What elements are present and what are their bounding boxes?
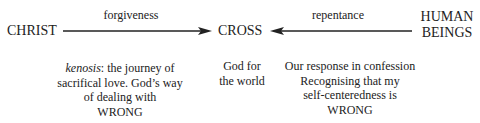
repentance-arrow — [270, 27, 412, 35]
node-human-line1: HUMAN — [418, 9, 476, 25]
node-christ: CHRIST — [7, 23, 57, 39]
description-right: Our response in confession Recognising t… — [280, 59, 420, 117]
description-right-line3: self-centeredness is — [280, 88, 420, 103]
description-left: kenosis: the journey of sacrifical love.… — [55, 61, 185, 119]
description-left-line4: WRONG — [55, 105, 185, 120]
description-center-line2: the world — [214, 74, 270, 89]
description-left-line3: of dealing with — [55, 90, 185, 105]
description-left-line2: sacrifical love. God’s way — [55, 76, 185, 91]
node-cross: CROSS — [218, 23, 262, 39]
description-center: God for the world — [214, 59, 270, 88]
description-center-line1: God for — [214, 59, 270, 74]
forgiveness-arrow — [63, 27, 212, 35]
description-right-line4: WRONG — [280, 103, 420, 118]
description-right-line2: Recognising that my — [280, 74, 420, 89]
edge-label-repentance: repentance — [303, 8, 373, 22]
description-right-line1: Our response in confession — [280, 59, 420, 74]
edge-label-forgiveness: forgiveness — [96, 8, 166, 22]
kenosis-term: kenosis — [66, 61, 101, 75]
node-human-line2: BEINGS — [418, 25, 476, 41]
description-left-line1-rest: : the journey of — [101, 61, 175, 75]
description-left-line1: kenosis: the journey of — [55, 61, 185, 76]
node-human-beings: HUMAN BEINGS — [418, 9, 476, 41]
